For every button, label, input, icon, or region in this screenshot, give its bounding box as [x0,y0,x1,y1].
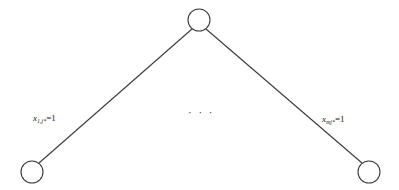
edge-root-to-leaf-1 [39,29,192,163]
ellipsis: · · · [188,106,215,118]
edge-label-1: x1,j*=1 [33,114,56,124]
root-node [188,9,210,31]
edge-label-m-sub: mj* [326,119,335,125]
edge-label-m: xmj*=1 [322,115,345,125]
leaf-node-m [358,161,380,183]
leaf-node-1 [21,161,43,183]
edge-label-m-rhs: =1 [335,114,345,124]
tree-diagram [0,0,399,190]
edge-label-1-sub: 1,j* [37,118,46,124]
edge-label-1-rhs: =1 [46,113,56,123]
edge-root-to-leaf-m [206,29,362,163]
